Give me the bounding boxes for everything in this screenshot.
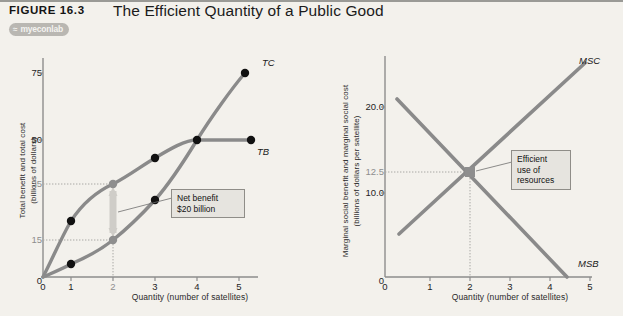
figure-number: FIGURE 16.3: [9, 4, 85, 16]
left-plot-area: [0, 46, 312, 316]
figure-container: FIGURE 16.3 The Efficient Quantity of a …: [0, 0, 623, 316]
wave-icon: ≈: [13, 26, 17, 34]
tc-curve: [43, 73, 245, 277]
net-benefit-callout-line1: Net benefit: [177, 193, 239, 204]
tb-point-3: [151, 154, 159, 162]
efficient-callout-line2: use of: [517, 165, 565, 176]
net-benefit-callout: Net benefit $20 billion: [171, 189, 245, 218]
figure-header: FIGURE 16.3 The Efficient Quantity of a …: [0, 0, 623, 24]
efficient-leader: [476, 162, 512, 171]
right-plot-area: [330, 46, 623, 316]
tc-point-1: [67, 260, 75, 268]
tc-curve-label: TC: [262, 57, 275, 68]
efficient-use-callout: Efficient use of resources: [511, 150, 571, 190]
net-benefit-arrow: [109, 187, 118, 237]
tb-point-2: [109, 180, 117, 188]
efficient-callout-line3: resources: [517, 175, 565, 186]
page-title: The Efficient Quantity of a Public Good: [113, 2, 384, 20]
tb-point-5: [247, 136, 255, 144]
myeconlab-logo-label: myeconlab: [20, 25, 63, 34]
net-benefit-callout-line2: $20 billion: [177, 204, 239, 215]
msc-line: [399, 63, 585, 234]
msc-curve-label: MSC: [579, 55, 600, 66]
tc-point-5: [241, 69, 249, 77]
myeconlab-logo[interactable]: ≈ myeconlab: [9, 23, 69, 36]
tb-curve-label: TB: [257, 146, 269, 157]
efficient-callout-line1: Efficient: [517, 154, 565, 165]
msb-curve-label: MSB: [578, 258, 599, 269]
tc-point-2: [109, 236, 117, 244]
chart-total-benefit-total-cost: Total benefit and total cost (billions o…: [0, 46, 312, 316]
tb-point-1: [67, 217, 75, 225]
efficient-point-marker: [465, 167, 475, 177]
chart-marginal-social-benefit-cost: Marginal social benefit and marginal soc…: [330, 46, 623, 316]
tb-point-4: [193, 136, 201, 144]
